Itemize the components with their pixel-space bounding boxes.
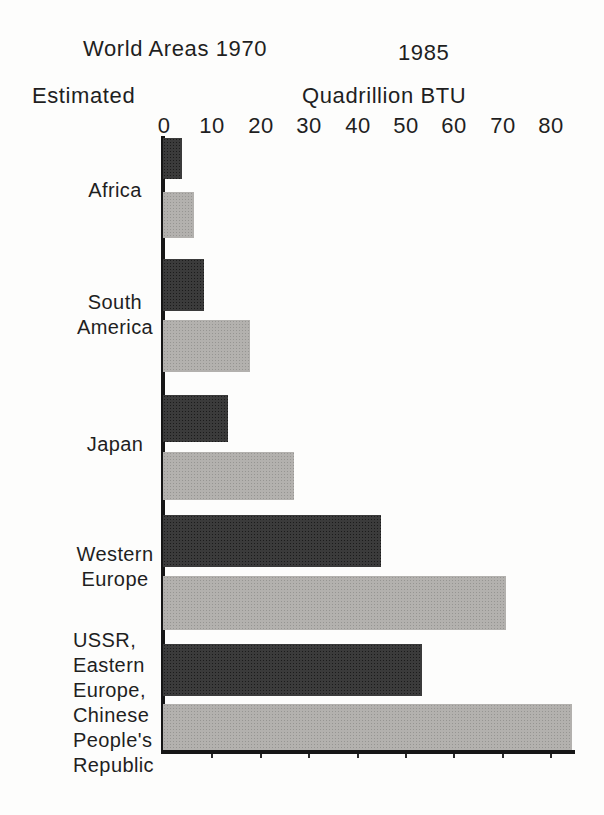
category-label-line: USSR, — [73, 628, 213, 653]
bar-western-europe-1985 — [163, 576, 506, 630]
x-tick-label-70: 70 — [479, 115, 527, 137]
x-tick-label-60: 60 — [430, 115, 478, 137]
category-label-line: Japan — [40, 432, 190, 457]
category-label-line: Europe — [40, 567, 190, 592]
category-label-ussr-block: USSR,EasternEurope,ChinesePeople'sRepubl… — [73, 628, 213, 778]
x-axis-tick-mark — [550, 754, 552, 758]
x-axis-baseline — [161, 750, 575, 754]
x-axis-tick-mark — [357, 754, 359, 758]
category-label-africa: Africa — [40, 178, 190, 203]
x-tick-label-30: 30 — [285, 115, 333, 137]
category-label-south-america: SouthAmerica — [40, 290, 190, 340]
category-label-western-europe: WesternEurope — [40, 542, 190, 592]
bar-western-europe-1970 — [163, 515, 381, 567]
chart-year-1985-label: 1985 — [398, 42, 449, 64]
estimated-label: Estimated — [32, 85, 135, 107]
category-label-line: Chinese — [73, 703, 213, 728]
category-label-line: America — [40, 315, 190, 340]
x-axis-tick-mark — [502, 754, 504, 758]
category-label-line: Eastern — [73, 653, 213, 678]
x-tick-label-80: 80 — [527, 115, 575, 137]
scanned-bar-chart-page: World Areas 1970 1985 Estimated Quadrill… — [0, 0, 604, 815]
x-tick-label-20: 20 — [237, 115, 285, 137]
x-axis-title: Quadrillion BTU — [302, 85, 466, 107]
x-axis-tick-mark — [453, 754, 455, 758]
x-axis-tick-mark — [405, 754, 407, 758]
x-axis-tick-mark — [260, 754, 262, 758]
bar-japan-1985 — [163, 452, 294, 500]
bar-ussr-block-1985 — [163, 704, 572, 750]
x-tick-label-50: 50 — [382, 115, 430, 137]
x-axis-tick-mark — [308, 754, 310, 758]
x-tick-label-10: 10 — [188, 115, 236, 137]
bar-africa-1970 — [163, 138, 182, 179]
category-label-line: South — [40, 290, 190, 315]
category-label-line: Western — [40, 542, 190, 567]
x-tick-label-0: 0 — [140, 115, 188, 137]
x-tick-label-40: 40 — [334, 115, 382, 137]
category-label-line: Republic — [73, 753, 213, 778]
category-label-line: People's — [73, 728, 213, 753]
category-label-line: Africa — [40, 178, 190, 203]
category-label-line: Europe, — [73, 678, 213, 703]
category-label-japan: Japan — [40, 432, 190, 457]
chart-title-1970: World Areas 1970 — [83, 38, 267, 60]
